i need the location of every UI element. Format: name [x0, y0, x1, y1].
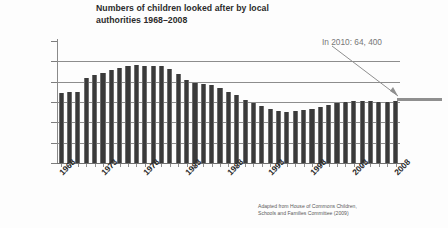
bar-slot	[157, 41, 165, 163]
source-note: Adapted from House of Commons Children, …	[258, 203, 438, 217]
bar-slot	[224, 41, 232, 163]
bar	[75, 92, 80, 163]
bar-slot	[216, 41, 224, 163]
bar	[234, 95, 239, 163]
x-tick-mark	[161, 164, 162, 167]
bar-slot	[258, 41, 266, 163]
bar-slot	[65, 41, 73, 163]
bar-slot	[124, 41, 132, 163]
bar	[142, 66, 147, 163]
bar	[393, 101, 398, 163]
bar-slot	[82, 41, 90, 163]
x-tick-mark	[379, 164, 380, 167]
x-axis-labels: 196819731978198319881993199820032008	[57, 168, 400, 198]
bar	[318, 107, 323, 163]
bar	[243, 100, 248, 163]
bar	[376, 102, 381, 164]
bar	[334, 103, 339, 163]
bar-slot	[274, 41, 282, 163]
bar	[100, 73, 105, 163]
bar-slot	[291, 41, 299, 163]
bar	[134, 65, 139, 163]
bar	[293, 111, 298, 163]
bar-slot	[132, 41, 140, 163]
bar	[176, 74, 181, 163]
bar-slot	[116, 41, 124, 163]
x-tick-mark	[136, 164, 137, 167]
bar	[192, 83, 197, 163]
bar	[151, 66, 156, 163]
x-tick-mark	[170, 164, 171, 167]
annotation-marker-2010	[397, 98, 442, 101]
bar-slot	[149, 41, 157, 163]
bar	[276, 111, 281, 163]
bar	[209, 85, 214, 163]
bar-slot	[57, 41, 65, 163]
bar	[301, 110, 306, 163]
bar	[326, 105, 331, 163]
bar-slot	[99, 41, 107, 163]
bar-slot	[141, 41, 149, 163]
bar	[184, 80, 189, 163]
bar-slot	[308, 41, 316, 163]
x-tick-mark	[304, 164, 305, 167]
x-tick-mark	[329, 164, 330, 167]
bar-slot	[283, 41, 291, 163]
bar	[385, 102, 390, 164]
x-tick-mark	[345, 164, 346, 167]
x-tick-mark	[78, 164, 79, 167]
bar-slot	[107, 41, 115, 163]
bar-slot	[182, 41, 190, 163]
bar-slot	[316, 41, 324, 163]
bar-slot	[174, 41, 182, 163]
x-tick-mark	[203, 164, 204, 167]
bar	[309, 109, 314, 163]
bar	[217, 88, 222, 163]
bar	[259, 106, 264, 163]
bar-slot	[166, 41, 174, 163]
bar	[67, 92, 72, 163]
annotation-leader-line	[330, 44, 410, 100]
x-tick-mark	[120, 164, 121, 167]
x-tick-mark	[370, 164, 371, 167]
bar-slot	[74, 41, 82, 163]
bar	[251, 103, 256, 163]
x-tick-mark	[287, 164, 288, 167]
bar	[368, 101, 373, 163]
x-tick-mark	[220, 164, 221, 167]
bar	[360, 101, 365, 163]
x-tick-mark	[253, 164, 254, 167]
bar	[167, 69, 172, 163]
bar-slot	[90, 41, 98, 163]
bar	[284, 112, 289, 163]
bar	[343, 102, 348, 164]
bar	[351, 101, 356, 163]
bar-slot	[199, 41, 207, 163]
bar-slot	[207, 41, 215, 163]
bar-slot	[266, 41, 274, 163]
x-tick-mark	[262, 164, 263, 167]
bar	[201, 84, 206, 163]
bar	[84, 78, 89, 163]
chart-figure: Numbers of children looked after by loca…	[0, 0, 448, 228]
bar	[59, 93, 64, 163]
bar	[109, 70, 114, 163]
bar	[159, 66, 164, 163]
bar	[226, 92, 231, 163]
bar	[268, 109, 273, 163]
x-tick-mark	[86, 164, 87, 167]
bar-slot	[249, 41, 257, 163]
bar	[92, 75, 97, 163]
x-tick-mark	[95, 164, 96, 167]
x-tick-mark	[128, 164, 129, 167]
bar	[125, 66, 130, 163]
x-tick-mark	[178, 164, 179, 167]
x-tick-mark	[212, 164, 213, 167]
bar-slot	[191, 41, 199, 163]
bar-slot	[241, 41, 249, 163]
x-tick-mark	[387, 164, 388, 167]
x-tick-mark	[295, 164, 296, 167]
x-tick-mark	[245, 164, 246, 167]
x-tick-mark	[337, 164, 338, 167]
bar-slot	[299, 41, 307, 163]
